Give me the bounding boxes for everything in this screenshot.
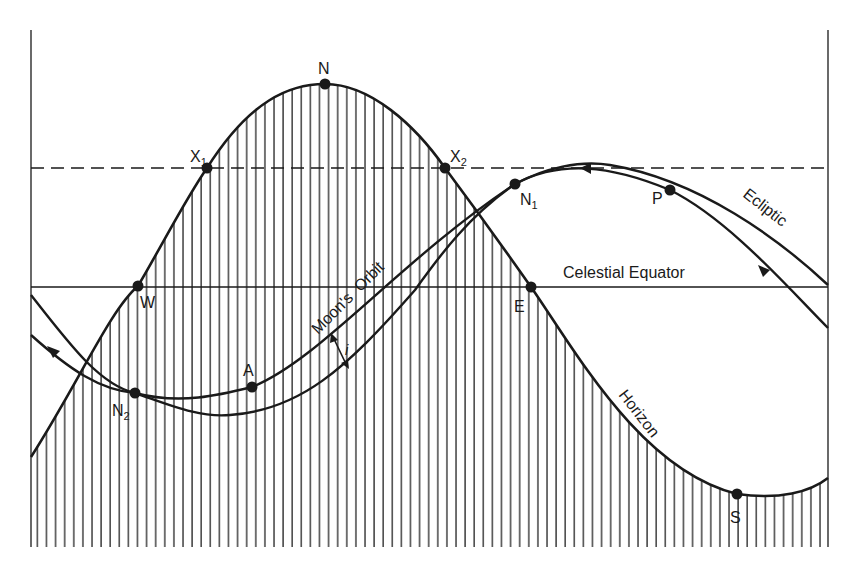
point-X2 bbox=[440, 163, 451, 174]
label-P: P bbox=[652, 190, 663, 207]
label-X1: X1 bbox=[190, 148, 207, 168]
label-N: N bbox=[318, 60, 330, 77]
point-W bbox=[133, 281, 144, 292]
label-X2: X2 bbox=[450, 148, 467, 168]
label-N1: N1 bbox=[520, 191, 538, 211]
celestial-equator-label: Celestial Equator bbox=[563, 264, 686, 281]
point-S bbox=[732, 489, 743, 500]
label-W: W bbox=[140, 294, 156, 311]
label-E: E bbox=[514, 298, 525, 315]
point-P bbox=[665, 185, 676, 196]
point-N1 bbox=[510, 179, 521, 190]
point-N bbox=[320, 79, 331, 90]
point-N2 bbox=[130, 388, 141, 399]
point-A bbox=[247, 382, 258, 393]
label-S: S bbox=[730, 509, 741, 526]
celestial-diagram: i N X1 X2 W E N1 N2 A P S Celestial Equa… bbox=[0, 0, 854, 568]
label-A: A bbox=[243, 362, 254, 379]
point-E bbox=[526, 282, 537, 293]
